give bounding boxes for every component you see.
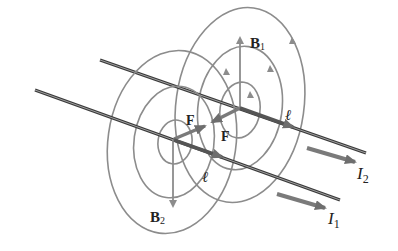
wire-2 bbox=[100, 60, 366, 153]
force-label-right: F bbox=[221, 129, 230, 144]
length-label-top: ℓ bbox=[285, 107, 291, 123]
b1-label: B1 bbox=[250, 35, 265, 52]
current-i1-label: I1 bbox=[327, 209, 340, 231]
current-i2-label: I2 bbox=[356, 164, 369, 186]
current-i2-arrow bbox=[307, 148, 355, 162]
current-i1-arrow bbox=[277, 194, 325, 208]
length-label-bottom: ℓ bbox=[202, 169, 208, 185]
b2-label: B2 bbox=[150, 209, 165, 226]
force-label-left: F bbox=[186, 113, 195, 128]
parallel-currents-diagram: B1 B2 F F ℓ ℓ I2 I1 bbox=[0, 0, 398, 251]
